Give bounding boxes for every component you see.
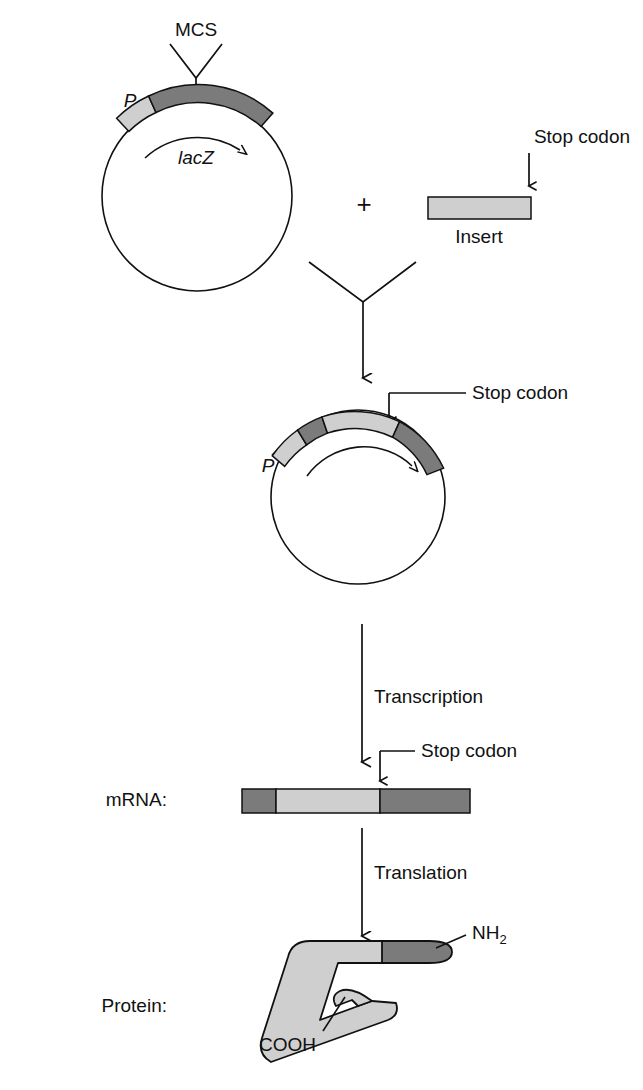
parent-plasmid: P lacZ [102, 84, 292, 291]
mrna-segment-insert [276, 789, 380, 813]
stop-codon-label-insert: Stop codon [534, 126, 630, 147]
ligation-merge-group [309, 262, 416, 378]
plus-sign: + [356, 189, 371, 219]
transcription-direction-arrow-recombinant [307, 447, 412, 476]
translation-step: Translation [362, 828, 467, 936]
stop-codon-label-mrna: Stop codon [421, 740, 517, 761]
protein-group: Protein: NH2 COOH [102, 922, 507, 1062]
insert-bar [428, 197, 531, 219]
nh2-label: NH2 [472, 922, 507, 947]
protein-row-label: Protein: [102, 995, 167, 1016]
cooh-label: COOH [259, 1034, 316, 1055]
cloning-diagram: MCS P lacZ + Stop codon Insert [0, 0, 643, 1090]
translation-label: Translation [374, 862, 467, 883]
lacz-segment-top [149, 84, 273, 126]
insert-fragment-group: Stop codon Insert [428, 126, 630, 247]
transcription-label: Transcription [374, 686, 483, 707]
merge-fork-icon [309, 262, 416, 302]
mrna-segment-lacz3 [380, 789, 470, 813]
recombinant-plasmid: Stop codon P [262, 382, 568, 584]
protein-c-terminal-hook [334, 990, 372, 1006]
protein-n-terminal-segment [382, 941, 452, 963]
promoter-label-recombinant: P [262, 455, 275, 476]
mrna-segment-lacz5 [242, 789, 276, 813]
mcs-fork-icon [170, 44, 222, 78]
mcs-label: MCS [175, 19, 217, 40]
mrna-group: mRNA: Stop codon [106, 740, 517, 813]
insert-label: Insert [455, 226, 503, 247]
promoter-label-top: P [124, 90, 137, 111]
lacz-label: lacZ [178, 147, 215, 168]
lacz3-segment-recombinant [393, 422, 444, 475]
figure-canvas: MCS P lacZ + Stop codon Insert [0, 0, 643, 1090]
stop-codon-label-plasmid: Stop codon [472, 382, 568, 403]
mrna-row-label: mRNA: [106, 789, 167, 810]
